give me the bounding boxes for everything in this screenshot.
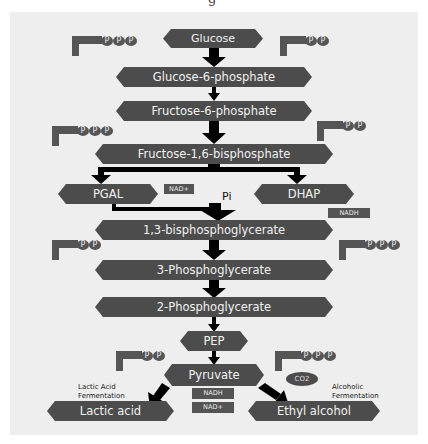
- node-glucose: Glucose: [163, 29, 263, 48]
- node-1-3-bisphosphoglycerate: 1,3-bisphosphoglycerate: [95, 220, 333, 240]
- pi-label: Pi: [222, 190, 231, 203]
- lactic-label-line1: Lactic Acid: [78, 383, 125, 392]
- node-3-phosphoglycerate: 3-Phosphoglycerate: [95, 260, 333, 280]
- alcoholic-label-line2: Fermentation: [332, 392, 379, 401]
- alcoholic-fermentation-label: Alcoholic Fermentation: [332, 383, 379, 401]
- node-dhap: DHAP: [254, 184, 354, 204]
- alcoholic-label-line1: Alcoholic: [332, 383, 379, 392]
- node-glucose-6-phosphate: Glucose-6-phosphate: [116, 67, 312, 87]
- node-2-phosphoglycerate: 2-Phosphoglycerate: [95, 297, 333, 317]
- node-pep: PEP: [180, 331, 248, 351]
- node-pyruvate: Pyruvate: [164, 364, 264, 386]
- co2-ellipse: CO2: [286, 372, 318, 386]
- lactic-fermentation-label: Lactic Acid Fermentation: [78, 383, 125, 401]
- nad-plus-tag-top: NAD+: [164, 184, 194, 194]
- lactic-label-line2: Fermentation: [78, 392, 125, 401]
- nadh-tag-top: NADH: [328, 208, 370, 218]
- node-pgal: PGAL: [58, 184, 158, 204]
- node-ethyl-alcohol: Ethyl alcohol: [248, 401, 380, 421]
- nad-plus-tag-bottom: NAD+: [192, 402, 234, 413]
- node-lactic-acid: Lactic acid: [47, 401, 174, 421]
- node-fructose-6-phosphate: Fructose-6-phosphate: [116, 101, 312, 121]
- nadh-tag-bottom: NADH: [192, 388, 234, 399]
- node-fructose-1-6-bisphosphate: Fructose-1,6-bisphosphate: [95, 144, 333, 164]
